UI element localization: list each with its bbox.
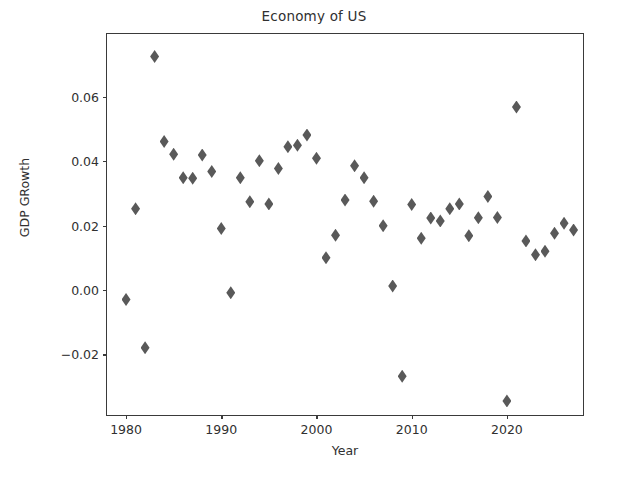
scatter-point	[350, 159, 359, 172]
scatter-point	[569, 224, 578, 237]
y-tick-label: 0.02	[71, 218, 99, 233]
chart-figure: Economy of US 19801990200020102020 −0.02…	[0, 0, 628, 478]
scatter-point	[141, 341, 150, 354]
chart-title: Economy of US	[0, 8, 628, 24]
scatter-point	[293, 139, 302, 152]
y-axis-label: GDP GRowth	[17, 108, 32, 288]
scatter-point	[198, 149, 207, 162]
scatter-point	[245, 195, 254, 208]
scatter-point	[531, 248, 540, 261]
x-axis-label: Year	[106, 443, 584, 458]
y-tick-mark	[103, 354, 107, 355]
scatter-point	[236, 171, 245, 184]
x-tick-label: 2010	[396, 422, 428, 437]
scatter-point	[560, 217, 569, 230]
y-tick-mark	[103, 161, 107, 162]
scatter-point	[493, 211, 502, 224]
plot-area: 19801990200020102020 −0.020.000.020.040.…	[106, 33, 584, 416]
scatter-point	[169, 148, 178, 161]
scatter-point	[150, 50, 159, 63]
y-tick-mark	[103, 97, 107, 98]
x-tick-label: 2000	[301, 422, 333, 437]
scatter-point	[283, 140, 292, 153]
x-tick-mark	[126, 415, 127, 419]
y-tick-label: 0.04	[71, 154, 99, 169]
y-tick-label: −0.02	[61, 347, 99, 362]
scatter-point	[426, 212, 435, 225]
x-tick-label: 1990	[205, 422, 237, 437]
y-tick-label: 0.00	[71, 282, 99, 297]
y-tick-mark	[103, 290, 107, 291]
scatter-point	[379, 219, 388, 232]
scatter-point	[521, 234, 530, 247]
scatter-point	[312, 152, 321, 165]
scatter-point	[369, 195, 378, 208]
scatter-point	[122, 293, 131, 306]
scatter-point	[436, 214, 445, 227]
scatter-point	[264, 197, 273, 210]
scatter-point	[207, 165, 216, 178]
scatter-point	[541, 245, 550, 258]
scatter-point	[302, 129, 311, 142]
scatter-point	[274, 162, 283, 175]
scatter-point	[474, 211, 483, 224]
scatter-point	[179, 171, 188, 184]
scatter-point	[407, 198, 416, 211]
scatter-point	[445, 202, 454, 215]
scatter-point	[388, 280, 397, 293]
x-tick-mark	[221, 415, 222, 419]
x-tick-label: 2020	[491, 422, 523, 437]
x-tick-mark	[412, 415, 413, 419]
x-tick-mark	[507, 415, 508, 419]
scatter-point	[550, 227, 559, 240]
scatter-point	[341, 194, 350, 207]
scatter-point	[360, 171, 369, 184]
scatter-point	[483, 190, 492, 203]
x-tick-mark	[316, 415, 317, 419]
x-tick-label: 1980	[110, 422, 142, 437]
scatter-point	[255, 154, 264, 167]
scatter-point	[455, 197, 464, 210]
scatter-point	[131, 202, 140, 215]
scatter-point	[398, 370, 407, 383]
scatter-point	[226, 286, 235, 299]
scatter-point	[188, 172, 197, 185]
scatter-point	[512, 101, 521, 114]
y-tick-label: 0.06	[71, 89, 99, 104]
scatter-point	[322, 251, 331, 264]
scatter-point	[464, 229, 473, 242]
scatter-point	[417, 232, 426, 245]
scatter-point	[502, 394, 511, 407]
scatter-point	[217, 222, 226, 235]
scatter-point	[331, 229, 340, 242]
scatter-point	[160, 135, 169, 148]
scatter-points-layer	[107, 34, 583, 415]
y-tick-mark	[103, 226, 107, 227]
